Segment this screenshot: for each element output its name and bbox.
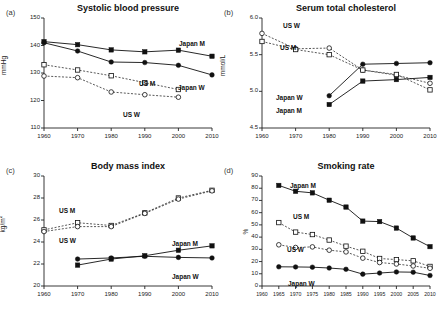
data-point-japan-w	[344, 267, 349, 272]
data-point-us-m	[394, 257, 398, 261]
x-tick-label: 2000	[387, 291, 405, 297]
x-tick-label: 1980	[320, 291, 338, 297]
y-tick-label: 60	[232, 209, 258, 215]
data-point-japan-m	[411, 236, 415, 240]
data-point-us-w	[394, 262, 399, 267]
data-point-us-m	[344, 244, 348, 248]
y-tick-label: 80	[232, 184, 258, 190]
data-point-japan-m	[293, 189, 297, 193]
data-point-us-w	[310, 245, 315, 250]
y-tick-label: 10	[232, 270, 258, 276]
data-point-japan-w	[394, 270, 399, 275]
x-tick-label: 2005	[404, 291, 422, 297]
figure-panel-grid: (a)Systolic blood pressuremmHg1101201301…	[0, 0, 437, 317]
data-point-us-w	[428, 266, 433, 271]
x-tick-label: 1995	[371, 291, 389, 297]
y-tick-label: 20	[232, 258, 258, 264]
y-tick-label: 90	[232, 172, 258, 178]
series-line-us-m	[279, 223, 430, 267]
data-point-japan-m	[327, 198, 331, 202]
x-tick-label: 1970	[287, 291, 305, 297]
x-tick-label: 1990	[354, 291, 372, 297]
data-point-japan-m	[428, 244, 432, 248]
data-point-us-m	[310, 232, 314, 236]
data-point-us-m	[361, 249, 365, 253]
data-point-japan-m	[310, 191, 314, 195]
data-point-us-w	[377, 260, 382, 265]
x-tick-label: 1960	[253, 291, 271, 297]
y-tick-label: 0	[232, 282, 258, 288]
data-point-japan-w	[310, 265, 315, 270]
data-point-japan-w	[293, 265, 298, 270]
series-label-us-w: US W	[287, 246, 304, 253]
data-point-japan-m	[344, 205, 348, 209]
x-tick-label: 2010	[421, 291, 437, 297]
data-point-japan-m	[377, 219, 381, 223]
data-point-us-m	[411, 259, 415, 263]
data-point-us-w	[344, 250, 349, 255]
data-point-us-m	[277, 220, 281, 224]
x-tick-label: 1975	[303, 291, 321, 297]
series-line-japan-w	[279, 267, 430, 276]
y-tick-label: 30	[232, 245, 258, 251]
data-point-japan-w	[411, 270, 416, 275]
data-point-us-w	[277, 243, 282, 248]
data-point-japan-m	[394, 226, 398, 230]
x-tick-label: 1985	[337, 291, 355, 297]
data-point-us-w	[327, 248, 332, 253]
data-point-japan-m	[277, 183, 281, 187]
data-point-japan-w	[377, 271, 382, 276]
y-tick-label: 70	[232, 196, 258, 202]
data-point-us-w	[411, 264, 416, 269]
plot-area-d	[0, 0, 437, 317]
series-label-japan-m: Japan M	[290, 182, 316, 189]
data-point-japan-w	[361, 272, 366, 277]
data-point-japan-m	[361, 219, 365, 223]
data-point-us-m	[327, 238, 331, 242]
y-tick-label: 50	[232, 221, 258, 227]
series-label-japan-w: Japan W	[288, 280, 315, 287]
y-tick-label: 40	[232, 233, 258, 239]
series-label-us-m: US M	[293, 213, 309, 220]
x-tick-label: 1965	[270, 291, 288, 297]
data-point-us-w	[361, 256, 366, 261]
data-point-japan-w	[277, 265, 282, 270]
data-point-us-m	[293, 230, 297, 234]
data-point-japan-w	[327, 266, 332, 271]
data-point-japan-w	[428, 273, 433, 278]
